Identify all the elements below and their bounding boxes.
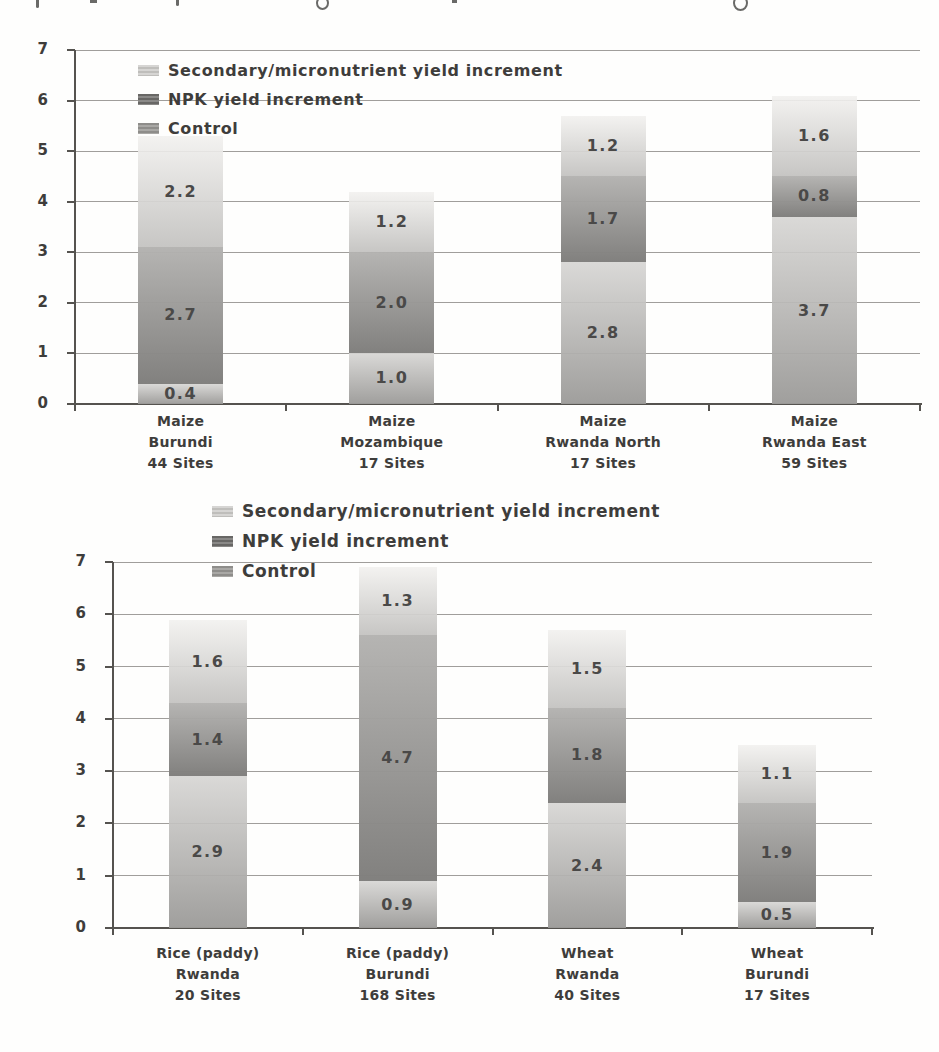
- category-line: Burundi: [313, 964, 483, 985]
- legend-swatch-control-icon: [212, 566, 233, 577]
- data-label: 0.5: [738, 902, 816, 928]
- legend-label: Control: [242, 561, 316, 581]
- y-axis-label: 5: [57, 657, 87, 675]
- y-axis-line: [112, 562, 114, 934]
- data-label: 1.1: [738, 745, 816, 803]
- category-line: 40 Sites: [502, 985, 672, 1006]
- legend-item: Secondary/micronutrient yield increment: [212, 496, 660, 526]
- data-label: 1.9: [738, 803, 816, 902]
- y-axis-label: 0: [57, 918, 87, 936]
- y-axis-label: 4: [57, 709, 87, 727]
- y-axis-label: 6: [57, 604, 87, 622]
- data-label: 4.7: [359, 635, 437, 881]
- category-label: WheatRwanda40 Sites: [502, 943, 672, 1006]
- data-label: 1.6: [169, 620, 247, 704]
- category-line: Rice (paddy): [313, 943, 483, 964]
- category-line: Rwanda: [123, 964, 293, 985]
- rice-wheat-yield-stacked-bar-chart: 012345672.91.41.6Rice (paddy)Rwanda20 Si…: [0, 0, 939, 1052]
- category-line: 168 Sites: [313, 985, 483, 1006]
- y-axis-label: 7: [57, 552, 87, 570]
- legend-item: Control: [212, 556, 660, 586]
- data-label: 1.5: [548, 630, 626, 708]
- data-label: 2.9: [169, 776, 247, 928]
- legend-swatch-npk-icon: [212, 536, 233, 547]
- y-axis-label: 2: [57, 813, 87, 831]
- x-tick: [302, 929, 304, 935]
- category-line: Rwanda: [502, 964, 672, 985]
- y-axis-label: 1: [57, 866, 87, 884]
- data-label: 1.4: [169, 703, 247, 776]
- x-tick: [492, 929, 494, 935]
- data-label: 2.4: [548, 803, 626, 928]
- gridline: [113, 614, 872, 615]
- y-axis-label: 3: [57, 761, 87, 779]
- legend-label: NPK yield increment: [242, 531, 449, 551]
- legend-item: NPK yield increment: [212, 526, 660, 556]
- legend-label: Secondary/micronutrient yield increment: [242, 501, 660, 521]
- x-tick: [681, 929, 683, 935]
- scanned-chart-page: 012345670.42.72.2MaizeBurundi44 Sites1.0…: [0, 0, 939, 1052]
- category-line: Wheat: [502, 943, 672, 964]
- data-label: 1.8: [548, 708, 626, 802]
- category-line: 17 Sites: [692, 985, 862, 1006]
- category-line: Burundi: [692, 964, 862, 985]
- category-label: WheatBurundi17 Sites: [692, 943, 862, 1006]
- category-line: Rice (paddy): [123, 943, 293, 964]
- category-line: 20 Sites: [123, 985, 293, 1006]
- category-label: Rice (paddy)Rwanda20 Sites: [123, 943, 293, 1006]
- legend-swatch-secondary-icon: [212, 506, 233, 517]
- x-tick: [871, 929, 873, 935]
- category-label: Rice (paddy)Burundi168 Sites: [313, 943, 483, 1006]
- data-label: 0.9: [359, 881, 437, 928]
- legend: Secondary/micronutrient yield incrementN…: [212, 496, 660, 586]
- category-line: Wheat: [692, 943, 862, 964]
- x-tick: [112, 929, 114, 935]
